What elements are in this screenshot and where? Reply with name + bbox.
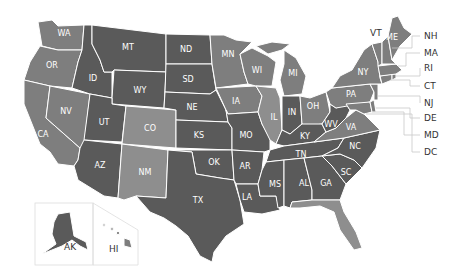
external-label-ct: CT [424, 81, 436, 91]
us-states-map: WAORCANVIDMTNDSDWYNEUTCOKSAZNMOKTXMNWIMI… [0, 0, 455, 276]
state-mt[interactable] [92, 25, 166, 72]
state-ks[interactable] [176, 120, 232, 150]
state-mi[interactable] [280, 50, 306, 96]
external-label-md: MD [424, 130, 439, 140]
state-hi-island[interactable] [116, 231, 119, 234]
state-nm[interactable] [118, 144, 168, 200]
state-az[interactable] [74, 140, 122, 198]
external-label-nj: NJ [424, 98, 433, 108]
external-label-ma: MA [424, 48, 439, 58]
state-hi-island[interactable] [111, 228, 114, 231]
state-nd[interactable] [166, 34, 212, 64]
external-label-vt: VT [370, 28, 382, 38]
state-co[interactable] [122, 106, 176, 148]
external-label-ri: RI [424, 63, 433, 73]
state-hi[interactable] [124, 238, 132, 248]
state-sd[interactable] [165, 64, 216, 94]
state-fl[interactable] [290, 200, 362, 250]
state-wy[interactable] [112, 70, 166, 108]
state-hi-island[interactable] [103, 224, 105, 226]
external-label-dc: DC [424, 147, 437, 157]
external-label-de: DE [424, 113, 437, 123]
state-wa[interactable] [38, 20, 84, 50]
inset-box-hawaii [93, 203, 138, 265]
external-label-nh: NH [424, 31, 438, 41]
label-hi: HI [109, 244, 118, 254]
label-ak: AK [64, 242, 77, 252]
